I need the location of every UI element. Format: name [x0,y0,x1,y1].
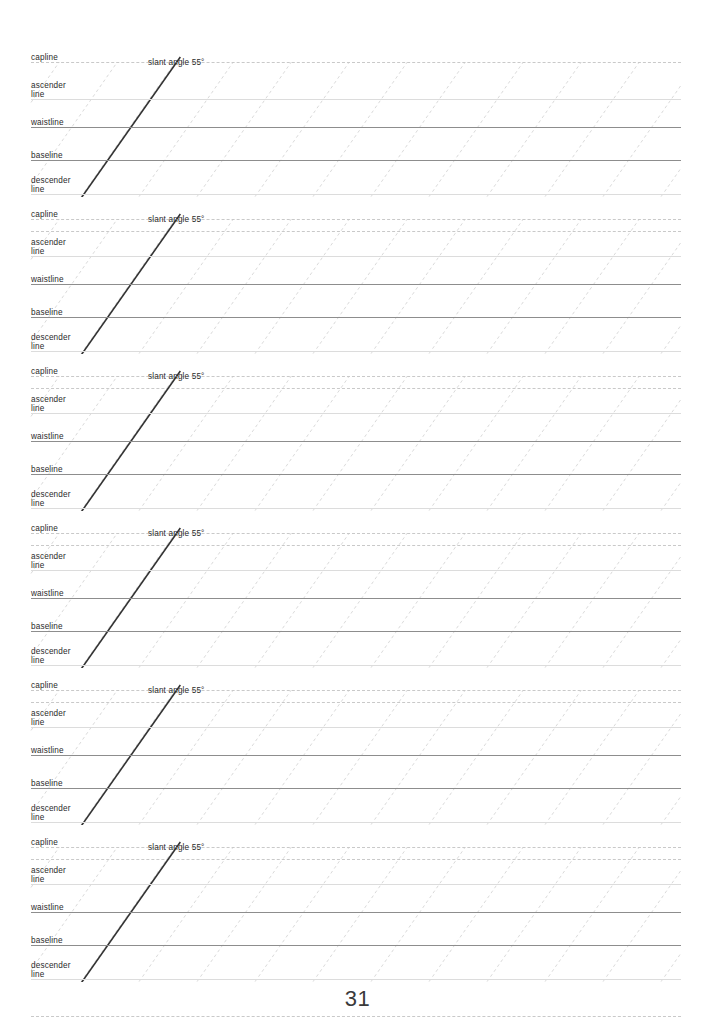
slant-line [57,533,175,668]
baseline-label: baseline [31,151,63,160]
waistline-label: waistline [31,746,64,755]
descender-line-label: descender line [31,961,71,980]
bold-slant-guide [58,214,180,354]
slant-grid [0,521,715,668]
slant-line [231,690,349,825]
slant-line [405,533,523,668]
ascender-line-label: ascender line [31,866,66,885]
slant-line [579,556,681,668]
slant-angle-caption: slant angle 55° [148,529,205,538]
capline-label: capline [31,367,58,376]
slant-line [579,242,681,354]
slant-line [463,219,581,354]
ascender-line-label: ascender line [31,238,66,257]
ascender-line-label: ascender line [31,552,66,571]
slant-line [115,62,233,197]
slant-line [173,533,291,668]
waistline-label: waistline [31,275,64,284]
bold-slant-guide [58,685,180,825]
slant-line [347,533,465,668]
slant-line [637,168,681,197]
slant-line [521,62,639,197]
slant-line [579,713,681,825]
slant-line [173,62,291,197]
slant-line [405,847,523,982]
slant-line [521,847,639,982]
capline-label: capline [31,210,58,219]
slant-grid [0,835,715,982]
baseline-label: baseline [31,465,63,474]
slant-line [521,219,639,354]
slant-line [463,62,581,197]
slant-line [463,847,581,982]
slant-angle-caption: slant angle 55° [148,215,205,224]
bold-slant-guide [58,371,180,511]
waistline-label: waistline [31,903,64,912]
capline-label: capline [31,838,58,847]
capline-label: capline [31,53,58,62]
ascender-line-label: ascender line [31,395,66,414]
bold-slant-guide [58,842,180,982]
slant-grid [0,50,715,197]
slant-line [579,399,681,511]
slant-line [405,690,523,825]
descender-line-label: descender line [31,804,71,823]
capline-label: capline [31,681,58,690]
bottom-line-rule [31,1016,681,1017]
slant-line [579,85,681,197]
slant-line [637,953,681,982]
slant-line [57,62,175,197]
slant-grid [0,207,715,354]
slant-line [57,219,175,354]
slant-line [173,376,291,511]
slant-angle-caption: slant angle 55° [148,843,205,852]
slant-grid [0,364,715,511]
baseline-label: baseline [31,936,63,945]
slant-line [637,325,681,354]
ascender-line-label: ascender line [31,81,66,100]
slant-line [463,690,581,825]
bold-slant-guide [58,528,180,668]
slant-line [173,847,291,982]
waistline-label: waistline [31,589,64,598]
slant-line [57,690,175,825]
slant-grid [0,678,715,825]
slant-line [521,690,639,825]
slant-line [231,62,349,197]
descender-line-label: descender line [31,176,71,195]
descender-line-label: descender line [31,490,71,509]
slant-angle-caption: slant angle 55° [148,686,205,695]
slant-line [57,376,175,511]
slant-line [289,62,407,197]
bold-slant-guide [58,57,180,197]
slant-line [405,376,523,511]
baseline-label: baseline [31,308,63,317]
slant-line [115,376,233,511]
descender-line-label: descender line [31,647,71,666]
descender-line-label: descender line [31,333,71,352]
slant-line [347,219,465,354]
slant-line [231,533,349,668]
slant-line [115,219,233,354]
capline-label: capline [31,524,58,533]
slant-angle-caption: slant angle 55° [148,58,205,67]
page-number: 31 [0,986,715,1012]
slant-line [231,376,349,511]
slant-line [347,62,465,197]
slant-line [637,482,681,511]
slant-line [289,690,407,825]
slant-line [637,796,681,825]
slant-line [231,219,349,354]
slant-line [231,847,349,982]
slant-line [173,690,291,825]
slant-line [637,639,681,668]
slant-line [463,376,581,511]
slant-line [579,870,681,982]
slant-line [57,847,175,982]
slant-line [289,219,407,354]
slant-line [347,847,465,982]
slant-line [289,533,407,668]
slant-line [347,690,465,825]
slant-angle-caption: slant angle 55° [148,372,205,381]
baseline-label: baseline [31,779,63,788]
